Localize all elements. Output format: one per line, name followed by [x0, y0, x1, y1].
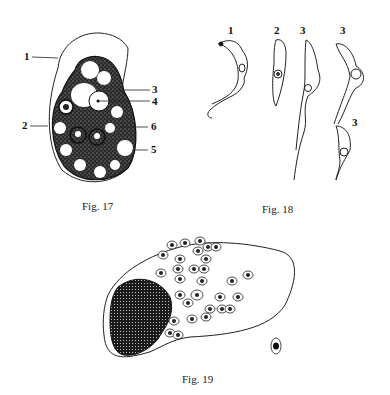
fig18-label-2: 2	[274, 24, 280, 36]
fig17-label-3: 3	[152, 83, 158, 95]
figure-17: 1 2 3 4 6 5 Fig. 17	[0, 0, 195, 220]
fig17-label-4: 4	[152, 95, 158, 107]
figure-19: Fig. 19	[80, 225, 330, 395]
fig18-label-3c: 3	[352, 116, 358, 128]
fig17-label-2: 2	[22, 119, 28, 131]
fig17-label-5: 5	[151, 143, 157, 155]
fig17-caption: Fig. 17	[82, 200, 113, 212]
fig18-label-3b: 3	[340, 24, 346, 36]
figure-18: 1 2 3 3 3 Fig. 18	[190, 0, 390, 220]
fig17-label-1: 1	[24, 50, 30, 62]
fig19-caption: Fig. 19	[182, 373, 213, 385]
fig18-label-1: 1	[228, 24, 234, 36]
fig18-caption: Fig. 18	[262, 203, 293, 215]
trypanosomes-drawing	[190, 0, 390, 220]
fig18-label-3a: 3	[300, 24, 306, 36]
cell-with-inclusions-drawing	[0, 0, 195, 220]
fig17-label-6: 6	[151, 120, 157, 132]
macrophage-with-parasites-drawing	[80, 225, 330, 395]
